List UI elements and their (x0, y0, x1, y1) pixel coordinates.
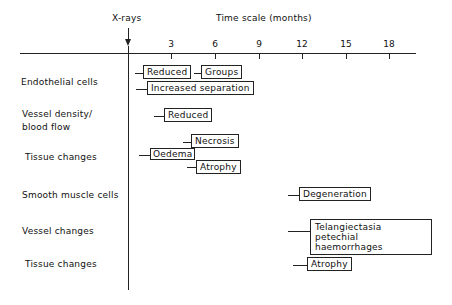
event-leader-line (154, 116, 164, 117)
row-label-endothelial-cells: Endothelial cells (21, 77, 98, 87)
event-leader-line (288, 195, 299, 196)
time-scale-title: Time scale (months) (216, 13, 312, 23)
event-box-increased-separation: Increased separation (147, 81, 254, 95)
tick-label-12: 12 (292, 39, 312, 49)
event-leader-line (135, 73, 143, 74)
arrow-down-icon (125, 39, 131, 46)
event-box-oedema: Oedema (150, 148, 195, 160)
tick-15 (346, 54, 347, 59)
event-box-atrophy-late: Atrophy (307, 257, 352, 271)
event-box-atrophy-early: Atrophy (196, 160, 241, 174)
event-box-endothelial-reduced: Reduced (143, 65, 191, 79)
row-label-tissue-changes-early: Tissue changes (25, 152, 97, 162)
row-label-tissue-changes-late: Tissue changes (25, 259, 97, 269)
tick-18 (389, 54, 390, 59)
event-box-degeneration: Degeneration (299, 187, 371, 201)
event-text-line-2: petechial haemorrhages (315, 232, 427, 252)
event-leader-line (136, 89, 147, 90)
tick-label-9: 9 (249, 39, 269, 49)
tick-label-18: 18 (379, 39, 399, 49)
event-box-necrosis: Necrosis (191, 134, 239, 148)
tick-label-3: 3 (161, 39, 181, 49)
event-text-line-1: Telangiectasia (315, 222, 427, 232)
row-label-vessel-density: Vessel density/ (22, 109, 92, 119)
tick-12 (302, 54, 303, 59)
event-leader-line (139, 155, 150, 156)
tick-label-6: 6 (205, 39, 225, 49)
tick-3 (171, 54, 172, 59)
event-box-vessel-density-reduced: Reduced (164, 108, 212, 122)
tick-label-15: 15 (336, 39, 356, 49)
row-label-smooth-muscle-cells: Smooth muscle cells (22, 190, 119, 200)
time-axis (20, 53, 416, 54)
tick-6 (215, 54, 216, 59)
event-box-telangiectasia: Telangiectasia petechial haemorrhages (310, 219, 432, 255)
event-box-endothelial-groups: Groups (201, 65, 242, 79)
event-leader-line (194, 73, 201, 74)
xray-label: X-rays (112, 13, 141, 23)
event-leader-line (293, 265, 307, 266)
tick-9 (259, 54, 260, 59)
event-leader-line (183, 142, 191, 143)
row-label-vessel-changes: Vessel changes (22, 226, 94, 236)
row-label-blood-flow: blood flow (22, 122, 70, 132)
event-leader-line (187, 167, 196, 168)
event-leader-line (288, 231, 311, 232)
xray-time-line (128, 46, 129, 290)
